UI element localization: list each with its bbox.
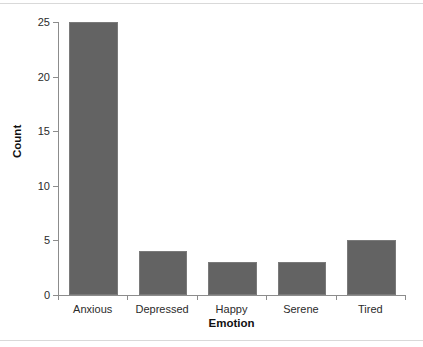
bar-chart-figure: 0510152025 AnxiousDepressedHappySereneTi… <box>0 0 423 347</box>
plot-area: 0510152025 AnxiousDepressedHappySereneTi… <box>58 22 405 295</box>
y-axis-tick-label: 15 <box>38 126 50 137</box>
x-axis-label-happy: Happy <box>216 304 248 315</box>
y-axis-tick-mark <box>53 131 58 132</box>
y-axis-tick-label: 25 <box>38 17 50 28</box>
x-axis-label-tired: Tired <box>358 304 383 315</box>
x-axis-line <box>58 295 405 296</box>
bar-happy[interactable] <box>208 262 257 295</box>
x-axis-tick-mark <box>58 295 59 300</box>
bar-serene[interactable] <box>278 262 327 295</box>
x-axis-tick-mark <box>405 295 406 300</box>
bar-depressed[interactable] <box>139 251 188 295</box>
y-axis-tick-mark <box>53 240 58 241</box>
bottom-divider <box>0 340 423 341</box>
x-axis-tick-mark <box>127 295 128 300</box>
y-axis-tick-label: 0 <box>44 290 50 301</box>
x-axis-tick-mark <box>197 295 198 300</box>
x-axis-tick-mark <box>336 295 337 300</box>
bar-tired[interactable] <box>347 240 396 295</box>
y-axis-tick-label: 10 <box>38 180 50 191</box>
y-axis-tick-mark <box>53 77 58 78</box>
y-axis-tick-mark <box>53 186 58 187</box>
bar-anxious[interactable] <box>69 22 118 295</box>
x-axis-label-serene: Serene <box>283 304 318 315</box>
x-axis-title: Emotion <box>58 318 405 330</box>
x-axis-tick-mark <box>266 295 267 300</box>
y-axis-tick-label: 20 <box>38 71 50 82</box>
x-axis-label-anxious: Anxious <box>73 304 112 315</box>
bar-series-count <box>59 22 405 295</box>
top-divider <box>0 3 423 4</box>
y-axis-title: Count <box>12 125 24 158</box>
y-axis-tick-label: 5 <box>44 235 50 246</box>
y-axis-tick-mark <box>53 22 58 23</box>
x-axis-label-depressed: Depressed <box>135 304 188 315</box>
